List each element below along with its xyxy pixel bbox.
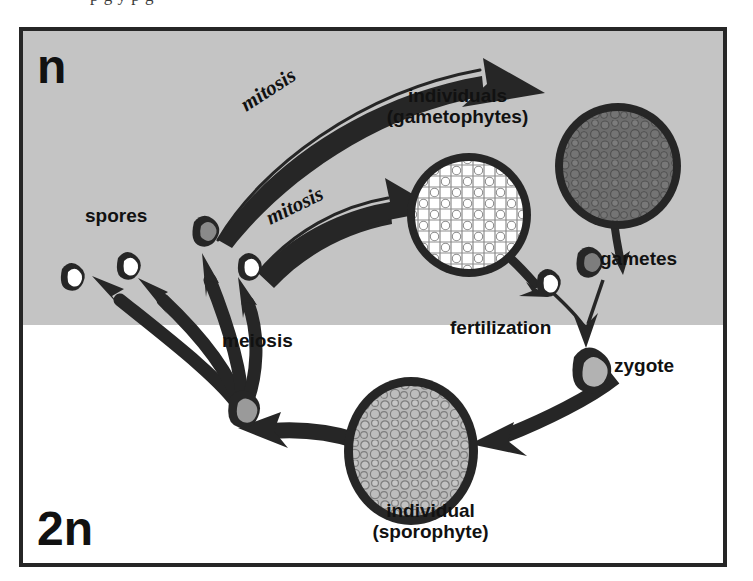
gametes-label: gametes — [600, 248, 677, 269]
haploid-region — [23, 31, 723, 325]
spores-label: spores — [85, 205, 147, 226]
gametophyte-caption-line2: (gametophytes) — [365, 106, 550, 127]
sporophyte-caption-line2: (sporophyte) — [338, 521, 523, 542]
gametophyte-caption: individuals (gametophytes) — [365, 85, 550, 128]
sporophyte-caption: individual (sporophyte) — [338, 500, 523, 543]
diploid-ploidy-label: 2n — [37, 505, 93, 553]
cropped-caption-text-value: p g y p g — [90, 0, 154, 6]
figure-page: p g y p g n 2n — [0, 0, 753, 581]
meiosis-label: meiosis — [222, 330, 293, 351]
cropped-caption-text: p g y p g — [0, 0, 753, 14]
zygote-label: zygote — [614, 355, 674, 376]
haploid-ploidy-label: n — [37, 43, 66, 91]
fertilization-label: fertilization — [450, 317, 551, 338]
gametophyte-caption-line1: individuals — [365, 85, 550, 106]
sporophyte-caption-line1: individual — [338, 500, 523, 521]
